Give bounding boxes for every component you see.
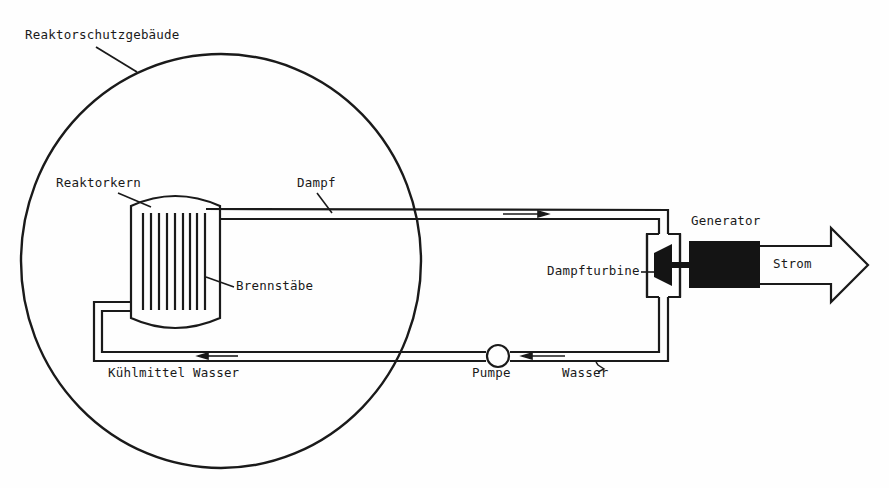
steam-pipe-inner [220, 219, 659, 234]
generator-label: Generator [691, 215, 761, 228]
turbine-icon [654, 244, 672, 286]
return-pipe-inner [510, 297, 659, 352]
generator-icon [689, 241, 760, 288]
fuel-rods-label: Brennstäbe [236, 280, 313, 293]
pump-label: Pumpe [472, 367, 511, 380]
power-plant-diagram [0, 0, 889, 488]
steam-pipe-outer [206, 209, 668, 234]
core-label: Reaktorkern [56, 177, 141, 190]
power-label: Strom [773, 258, 812, 271]
pump-icon [487, 345, 509, 367]
turbine-label: Dampfturbine [547, 265, 640, 278]
containment-leader [96, 47, 137, 72]
coolant-label: Kühlmittel Wasser [108, 367, 239, 380]
steam-label: Dampf [297, 177, 336, 190]
containment-label: Reaktorschutzgebäude [25, 29, 180, 42]
water-label: Wasser [562, 367, 608, 380]
turbine-shaft [672, 262, 690, 268]
